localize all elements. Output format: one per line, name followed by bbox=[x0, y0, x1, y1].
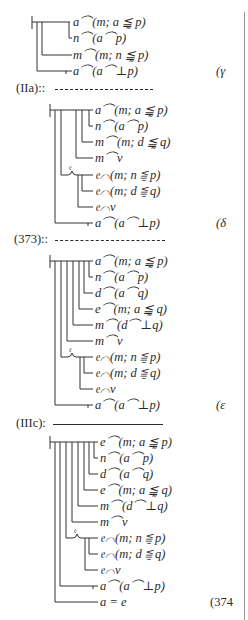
rule-line-IIa bbox=[55, 89, 153, 90]
formula-epsilon-4: e⌒(m; a ≦̰ q) bbox=[95, 302, 167, 316]
formula-delta-4: m⌒v bbox=[95, 151, 123, 165]
formula-gamma-1: a⌒(m; a ≦̰ p) bbox=[73, 15, 146, 29]
formula-epsilon-1: a⌒(m; a ≦̰ p) bbox=[95, 254, 168, 268]
rule-line-373 bbox=[55, 240, 165, 241]
formula-epsilon-3: d⌒(a⌒q) bbox=[95, 286, 148, 300]
equation-label-374: (374 bbox=[210, 595, 233, 610]
rule-label-IIa: (IIa):: bbox=[16, 81, 45, 96]
formula-delta-2: n⌒(a⌒p) bbox=[95, 119, 148, 133]
quantifier-letter-delta: 𝔢 bbox=[69, 163, 72, 172]
quantifier-letter-374: 𝔢 bbox=[74, 526, 77, 535]
begriffsschrift-page: 𝔢 𝔢 𝔢 a⌒(m; a ≦̰ p) n⌒(a⌒p) m⌒(m; n ≦̰ p… bbox=[0, 0, 248, 620]
formula-374-10: a⌒(a⌒⊥p) bbox=[100, 579, 165, 593]
formula-374-9: 𝔢⌒v bbox=[100, 563, 121, 577]
formula-374-11: a = e bbox=[100, 595, 126, 609]
formula-epsilon-6: m⌒v bbox=[95, 334, 123, 348]
formula-374-7: 𝔢⌒(m; n ≦̰ p) bbox=[100, 531, 165, 545]
formula-374-6: m⌒v bbox=[100, 515, 128, 529]
equation-label-delta: (δ bbox=[216, 216, 226, 231]
formula-epsilon-2: n⌒(a⌒p) bbox=[95, 270, 148, 284]
formula-374-5: m⌒(d⌒⊥q) bbox=[100, 499, 168, 513]
rule-label-IIIc: (IIIc): bbox=[16, 416, 46, 431]
formula-epsilon-9: 𝔢⌒v bbox=[95, 382, 116, 396]
formula-374-4: e⌒(m; a ≦̰ q) bbox=[100, 483, 172, 497]
tree-gamma bbox=[32, 16, 72, 74]
tree-epsilon bbox=[50, 255, 93, 408]
formula-epsilon-8: 𝔢⌒(m; d ≦̰ q) bbox=[95, 366, 160, 380]
formula-gamma-4: a⌒(a⌒⊥p) bbox=[73, 64, 138, 78]
formula-delta-3: m⌒(m; d ≦̰ q) bbox=[95, 135, 170, 149]
formula-374-3: d⌒(a⌒q) bbox=[100, 467, 153, 481]
formula-epsilon-10: a⌒(a⌒⊥p) bbox=[95, 398, 160, 412]
formula-epsilon-5: m⌒(d⌒⊥q) bbox=[95, 318, 163, 332]
formula-delta-7: 𝔢⌒v bbox=[95, 200, 116, 214]
quantifier-letter-epsilon: 𝔢 bbox=[69, 345, 72, 354]
formula-delta-8: a⌒(a⌒⊥p) bbox=[95, 216, 160, 230]
rule-line-IIIc bbox=[53, 424, 163, 425]
formula-374-8: 𝔢⌒(m; d ≦̰ q) bbox=[100, 547, 165, 561]
equation-label-epsilon: (ε bbox=[216, 398, 225, 413]
rule-label-373: (373):: bbox=[14, 232, 48, 247]
equation-label-gamma: (γ bbox=[216, 64, 225, 79]
formula-gamma-3: m⌒(m; n ≦̰ p) bbox=[73, 48, 148, 62]
formula-delta-6: 𝔢⌒(m; d ≦̰ q) bbox=[95, 184, 160, 198]
formula-delta-1: a⌒(m; a ≦̰ p) bbox=[95, 103, 168, 117]
tree-374 bbox=[50, 436, 98, 602]
formula-374-2: n⌒(a⌒p) bbox=[100, 451, 153, 465]
formula-delta-5: 𝔢⌒(m; n ≦̰ p) bbox=[95, 168, 160, 182]
formula-gamma-2: n⌒(a⌒p) bbox=[73, 31, 126, 45]
formula-374-1: e⌒(m; a ≦̰ p) bbox=[100, 435, 172, 449]
formula-epsilon-7: 𝔢⌒(m; n ≦̰ p) bbox=[95, 350, 160, 364]
